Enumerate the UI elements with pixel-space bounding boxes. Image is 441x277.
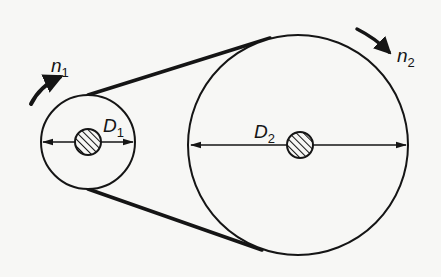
rotation-arrow-n1-icon	[31, 77, 60, 104]
pulley-large: D2	[188, 35, 408, 255]
label-n2: n2	[397, 45, 415, 70]
shaft-small-icon	[75, 129, 101, 155]
rotation-arrow-n2-icon	[357, 29, 389, 52]
belt-drive-diagram: D1 D2 n1 n2	[0, 0, 441, 277]
shaft-large-icon	[287, 132, 313, 158]
pulley-small: D1	[41, 95, 135, 189]
